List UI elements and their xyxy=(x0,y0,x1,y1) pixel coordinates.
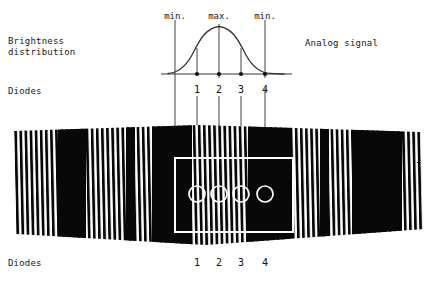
barcode-dark-band-4 xyxy=(352,116,402,252)
barcode-dark-band-6 xyxy=(320,116,329,252)
barcode-dark-band-5 xyxy=(126,116,135,252)
barcode-strip xyxy=(0,0,435,284)
figure-canvas: Brightnessdistribution Diodes Analog sig… xyxy=(0,0,435,284)
barcode-dark-band-1 xyxy=(58,116,86,252)
